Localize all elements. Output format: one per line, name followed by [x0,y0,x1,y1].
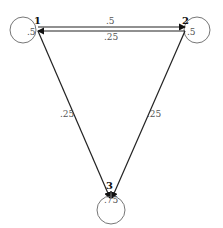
edge-2-to-1-label: .25 [104,32,119,42]
node-2-label: 2 [182,15,189,26]
node-1-self-loop-label: .5 [27,27,36,37]
node-3-label: 3 [106,180,113,191]
node-1-label: 1 [34,15,41,26]
node-2-self-loop-label: .5 [187,27,196,37]
edge-1-to-3-label: .25 [60,109,75,119]
markov-chain-diagram: 1 2 3 .5 .5 .75 .5 .25 .25 .25 [0,0,223,228]
node-3-self-loop-label: .75 [104,195,119,205]
edge-2-to-3-label: .25 [147,109,162,119]
edge-1-to-2-label: .5 [106,16,115,26]
